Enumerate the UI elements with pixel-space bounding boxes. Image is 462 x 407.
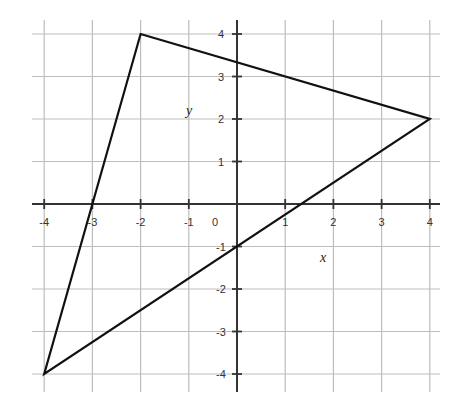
y-axis-label: y [184,103,193,118]
y-tick-label: 4 [218,28,224,40]
coordinate-plane: -4-3-2-101234 -4-3-2-11234 x y [0,0,462,407]
x-tick-label: 4 [427,216,433,228]
y-tick-label: 1 [218,156,224,168]
y-tick-label: -4 [216,368,226,380]
y-tick-label: -1 [216,241,226,253]
y-tick-label: -2 [216,283,226,295]
x-tick-label: 1 [282,216,288,228]
x-tick-label: -4 [39,216,49,228]
x-tick-label: -1 [184,216,194,228]
x-axis-label: x [319,250,327,265]
x-tick-label: -2 [136,216,146,228]
x-tick-label: 0 [212,216,218,228]
y-tick-label: 2 [218,113,224,125]
y-tick-label: 3 [218,71,224,83]
x-tick-label: 3 [379,216,385,228]
y-tick-label: -3 [216,326,226,338]
x-tick-label: 2 [330,216,336,228]
